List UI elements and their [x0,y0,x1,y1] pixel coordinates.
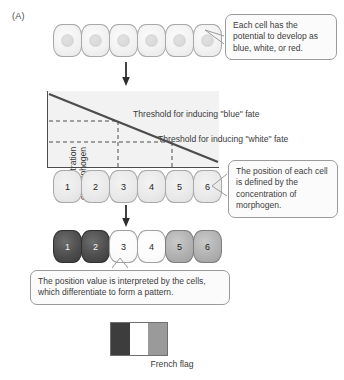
cell-number-label: 5 [166,181,193,193]
cell-number-label: 2 [82,181,109,193]
flag-stripe-red [148,323,167,355]
cell-undetermined-1 [53,24,82,57]
cell-undetermined-3 [109,24,138,57]
french-flag [110,322,168,356]
nucleus-icon [173,34,186,47]
cell-number-label: 4 [138,241,165,253]
callout-position: The position of each cell is defined by … [228,160,338,218]
panel-label: (A) [12,11,25,21]
cell-fate-5-red: 5 [165,230,194,263]
nucleus-icon [145,34,158,47]
cell-number-label: 6 [194,181,221,193]
cell-undetermined-2 [81,24,110,57]
cell-undetermined-4 [137,24,166,57]
cell-fate-1-blue: 1 [53,230,82,263]
nucleus-icon [61,34,74,47]
nucleus-icon [89,34,102,47]
threshold-white-label: Threshold for inducing "white" fate [158,134,288,144]
morphogen-gradient-chart: Concentration of morphogen [47,91,219,168]
arrow-down-1-head [122,77,130,86]
callout-potential: Each cell has the potential to develop a… [225,14,337,60]
cell-number-label: 6 [194,241,221,253]
cell-number-label: 2 [82,241,109,253]
cell-number-label: 3 [110,181,137,193]
callout-pattern: The position value is interpreted by the… [30,270,230,305]
cell-fate-3-white: 3 [109,230,138,263]
cell-undetermined-5 [165,24,194,57]
nucleus-icon [117,34,130,47]
nucleus-icon [201,34,214,47]
cell-numbered-2: 2 [81,170,110,203]
cell-numbered-3: 3 [109,170,138,203]
cell-fate-6-red: 6 [193,230,222,263]
flag-stripe-blue [111,323,130,355]
cell-fate-4-white: 4 [137,230,166,263]
cell-number-label: 3 [110,241,137,253]
cell-number-label: 4 [138,181,165,193]
arrow-down-2-head [122,218,130,227]
cell-numbered-5: 5 [165,170,194,203]
cell-numbered-6: 6 [193,170,222,203]
cell-numbered-4: 4 [137,170,166,203]
cell-number-label: 1 [54,181,81,193]
threshold-blue-label: Threshold for inducing "blue" fate [133,109,260,119]
cell-fate-2-blue: 2 [81,230,110,263]
flag-caption: French flag [0,359,344,369]
flag-stripe-white [130,323,149,355]
cell-undetermined-6 [193,24,222,57]
figure-panel-a: (A) Each cell has the potential to devel… [0,0,344,380]
cell-number-label: 5 [166,241,193,253]
cell-number-label: 1 [54,241,81,253]
cell-numbered-1: 1 [53,170,82,203]
